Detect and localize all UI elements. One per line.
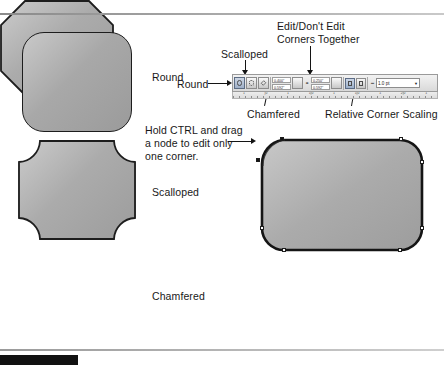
round-leader-line — [208, 83, 228, 84]
chamfered-corner-button[interactable] — [258, 77, 269, 89]
node-handle[interactable] — [420, 226, 424, 230]
top-left-corner-radius[interactable]: 0.400" — [272, 77, 291, 83]
label-scalloped: Scalloped — [152, 186, 199, 199]
tip-leader-arrowhead — [251, 138, 256, 144]
shape-round — [22, 32, 132, 132]
callout-edit-together-line2: Corners Together — [277, 33, 360, 46]
toolbar-separator-3 — [367, 77, 368, 90]
top-left-stepper[interactable] — [292, 77, 303, 89]
bottom-divider-rule — [0, 349, 444, 351]
right-corner-steppers — [331, 77, 342, 89]
round-corner-button[interactable] — [234, 77, 245, 89]
tip-leader-line — [228, 141, 252, 142]
ruler-mark: |0 — [265, 92, 268, 95]
callout-relative-corner-scaling: Relative Corner Scaling — [325, 108, 438, 121]
label-chamfered: Chamfered — [152, 290, 205, 303]
corner-property-toolbar[interactable]: 0.400" 0.592" ⚭ 0.250" 0.592" ━ 1.0 pt ▼ — [232, 74, 438, 92]
shape-round-node-editing — [258, 136, 426, 254]
outline-width-icon: ━ — [369, 77, 375, 89]
toolbar-separator-1 — [270, 77, 271, 90]
ruler-mark: 1|0 — [309, 92, 314, 95]
outline-width-combo[interactable]: 1.0 pt ▼ — [376, 78, 420, 88]
callout-chamfered: Chamfered — [247, 108, 300, 121]
shape-scalloped — [18, 140, 136, 240]
round-corner-glyph — [237, 80, 242, 86]
shape-scalloped-outline — [18, 140, 136, 240]
bottom-left-corner-radius[interactable]: 0.592" — [272, 84, 291, 90]
ruler-mark: 1 — [333, 92, 335, 95]
left-corner-steppers — [292, 77, 303, 89]
top-divider-rule — [0, 13, 444, 15]
node-handle-active[interactable] — [280, 137, 284, 141]
relative-corner-scaling-toggle[interactable] — [356, 78, 366, 89]
chamfered-corner-glyph — [261, 80, 267, 86]
lock-corners-icon[interactable]: ⚭ — [304, 77, 310, 89]
figure-page: Round Scalloped Chamfered Hold CTRL and … — [0, 0, 444, 365]
ruler-mark: 1|0 — [355, 92, 360, 95]
toolbar-separator-2 — [343, 77, 344, 90]
ruler-numbers: 1 |0 1 1|0 1 1|0 1 2|0 1 — [233, 92, 437, 95]
tip-line-1: Hold CTRL and drag — [145, 124, 243, 137]
node-handle[interactable] — [398, 248, 402, 252]
tip-line-2: a node to edit only — [145, 137, 233, 150]
edit-together-leader-line — [310, 46, 311, 72]
ruler-mark: 1 — [243, 92, 245, 95]
callout-scalloped: Scalloped — [221, 48, 268, 61]
page-corner-block — [0, 355, 78, 365]
node-handle[interactable] — [260, 226, 264, 230]
relative-corner-scaling-icon — [359, 81, 363, 86]
horizontal-ruler: 1 |0 1 1|0 1 1|0 1 2|0 1 — [232, 92, 438, 99]
scalloped-corner-button[interactable] — [246, 77, 257, 89]
node-handle[interactable] — [282, 248, 286, 252]
callout-round: Round — [177, 78, 208, 91]
shape-round-node-editing-outline — [258, 136, 426, 254]
node-handle-active-control[interactable] — [256, 158, 260, 162]
edit-corners-together-toggle[interactable] — [345, 78, 355, 89]
callout-edit-together-line1: Edit/Don't Edit — [277, 20, 345, 33]
scalloped-corner-glyph — [249, 80, 254, 86]
node-handle[interactable] — [420, 160, 424, 164]
chevron-down-icon: ▼ — [414, 81, 418, 86]
bottom-right-corner-radius[interactable]: 0.592" — [311, 84, 330, 90]
ruler-mark: 1 — [379, 92, 381, 95]
top-right-corner-radius[interactable]: 0.250" — [311, 77, 330, 83]
left-corner-fields: 0.400" 0.592" — [272, 77, 291, 90]
ruler-mark: 2|0 — [401, 92, 406, 95]
ruler-mark: 1 — [287, 92, 289, 95]
tip-line-3: one corner. — [145, 150, 199, 163]
outline-width-value: 1.0 pt — [378, 81, 390, 86]
node-handle[interactable] — [399, 137, 403, 141]
ruler-mark: 1 — [425, 92, 427, 95]
top-right-stepper[interactable] — [331, 77, 342, 89]
right-corner-fields: 0.250" 0.592" — [311, 77, 330, 90]
edit-corners-together-icon — [348, 81, 352, 86]
